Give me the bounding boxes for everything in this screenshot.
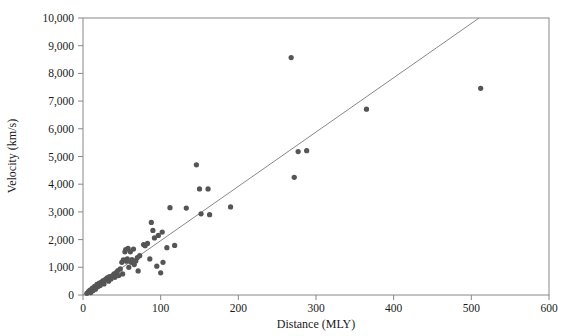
data-point	[289, 55, 294, 60]
data-point	[131, 246, 136, 251]
data-point	[149, 220, 154, 225]
y-tick-label: 3,000	[48, 206, 74, 219]
hubble-scatter-figure: 01,0002,0003,0004,0005,0006,0007,0008,00…	[0, 0, 566, 336]
y-axis-title: Velocity (km/s)	[5, 119, 19, 193]
y-tick-label: 6,000	[48, 123, 74, 136]
plot-frame	[83, 18, 549, 295]
y-tick-label: 8,000	[48, 67, 74, 80]
data-point	[304, 148, 309, 153]
x-tick-label: 100	[152, 302, 170, 314]
y-tick-label: 5,000	[48, 151, 74, 164]
data-point	[147, 256, 152, 261]
data-point	[478, 86, 483, 91]
x-axis-title: Distance (MLY)	[277, 317, 355, 331]
y-tick-label: 1,000	[48, 261, 74, 274]
data-point	[194, 162, 199, 167]
data-point	[184, 205, 189, 210]
data-point	[207, 212, 212, 217]
data-point	[167, 205, 172, 210]
x-tick-label: 400	[385, 302, 403, 314]
y-tick-label: 2,000	[48, 234, 74, 247]
data-point	[137, 253, 142, 258]
y-axis: 01,0002,0003,0004,0005,0006,0007,0008,00…	[42, 12, 83, 301]
data-point	[120, 271, 125, 276]
data-point	[126, 265, 131, 270]
data-point	[197, 186, 202, 191]
data-point	[364, 107, 369, 112]
scatter-points	[84, 55, 483, 296]
data-point	[145, 241, 150, 246]
x-tick-label: 0	[80, 302, 86, 314]
chart-canvas: 01,0002,0003,0004,0005,0006,0007,0008,00…	[0, 0, 566, 336]
axes-border	[83, 18, 549, 295]
data-point	[150, 228, 155, 233]
data-point	[205, 186, 210, 191]
data-point	[160, 229, 165, 234]
data-point	[198, 211, 203, 216]
y-tick-label: 0	[68, 289, 74, 301]
x-tick-label: 600	[540, 302, 558, 314]
y-tick-label: 9,000	[48, 40, 74, 53]
trend-line	[83, 18, 479, 295]
data-point	[296, 149, 301, 154]
data-point	[136, 268, 141, 273]
data-point	[118, 266, 123, 271]
y-tick-label: 10,000	[42, 12, 74, 25]
data-point	[154, 264, 159, 269]
data-point	[160, 260, 165, 265]
data-point	[172, 243, 177, 248]
data-point	[164, 245, 169, 250]
x-tick-label: 500	[463, 302, 481, 314]
data-point	[292, 175, 297, 180]
x-tick-label: 200	[230, 302, 248, 314]
hubble-trend-line	[83, 18, 479, 295]
y-tick-label: 4,000	[48, 178, 74, 191]
data-point	[158, 270, 163, 275]
data-point	[228, 204, 233, 209]
x-tick-label: 300	[307, 302, 325, 314]
x-axis: 0100200300400500600	[80, 295, 558, 314]
y-tick-label: 7,000	[48, 95, 74, 108]
